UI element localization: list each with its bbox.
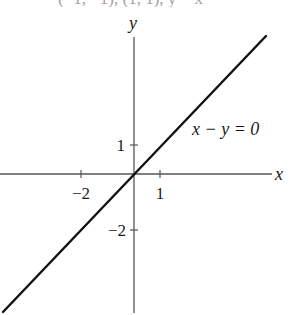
coordinate-plane: −2 1 1 −2 x y x − y = 0 xyxy=(0,0,302,315)
x-axis-label: x xyxy=(274,164,283,184)
x-tick-label-1: 1 xyxy=(156,184,165,203)
equation-label: x − y = 0 xyxy=(191,119,259,139)
y-tick-label-neg2: −2 xyxy=(108,221,126,240)
x-tick-label-neg2: −2 xyxy=(72,184,90,203)
y-axis-label: y xyxy=(127,13,137,33)
y-tick-label-1: 1 xyxy=(117,136,126,155)
